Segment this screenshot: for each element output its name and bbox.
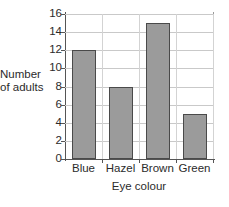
bar-hazel bbox=[109, 87, 133, 160]
gridline-vertical bbox=[102, 14, 103, 159]
y-axis-tick-mark bbox=[61, 87, 65, 88]
y-axis-tick-label: 2 bbox=[44, 135, 62, 147]
gridline-vertical bbox=[176, 14, 177, 159]
y-axis-tick-label: 16 bbox=[44, 8, 62, 20]
y-axis-tick-mark bbox=[61, 32, 65, 33]
bar-green bbox=[183, 114, 207, 159]
x-axis-tick-labels: BlueHazelBrownGreen bbox=[65, 161, 213, 177]
y-axis-tick-label: 0 bbox=[44, 153, 62, 165]
y-axis-tick-label: 8 bbox=[44, 81, 62, 93]
y-axis-tick-mark bbox=[61, 68, 65, 69]
y-axis-tick-mark bbox=[61, 123, 65, 124]
y-axis-tick-mark bbox=[61, 14, 65, 15]
bar-blue bbox=[72, 50, 96, 159]
y-axis-tick-mark bbox=[61, 50, 65, 51]
bar-chart: Number of adults 0246810121416 BlueHazel… bbox=[0, 0, 229, 207]
x-axis-tick-mark bbox=[213, 159, 214, 163]
y-axis-tick-label: 14 bbox=[44, 26, 62, 38]
x-axis-tick-label-green: Green bbox=[179, 161, 211, 175]
y-axis-tick-mark bbox=[61, 159, 65, 160]
x-axis-title: Eye colour bbox=[65, 179, 213, 193]
y-axis-tick-mark bbox=[61, 141, 65, 142]
gridline-vertical bbox=[139, 14, 140, 159]
y-axis-tick-mark bbox=[61, 105, 65, 106]
gridline-vertical bbox=[213, 14, 214, 159]
y-axis-tick-label: 6 bbox=[44, 99, 62, 111]
y-axis-tick-label: 10 bbox=[44, 63, 62, 75]
y-axis-tick-labels: 0246810121416 bbox=[44, 0, 62, 207]
x-axis-tick-label-blue: Blue bbox=[72, 161, 95, 175]
x-axis-tick-label-brown: Brown bbox=[141, 161, 174, 175]
y-axis-tick-label: 4 bbox=[44, 117, 62, 129]
bar-brown bbox=[146, 23, 170, 159]
y-axis-tick-label: 12 bbox=[44, 45, 62, 57]
plot-area bbox=[65, 14, 213, 159]
x-axis-tick-label-hazel: Hazel bbox=[106, 161, 135, 175]
